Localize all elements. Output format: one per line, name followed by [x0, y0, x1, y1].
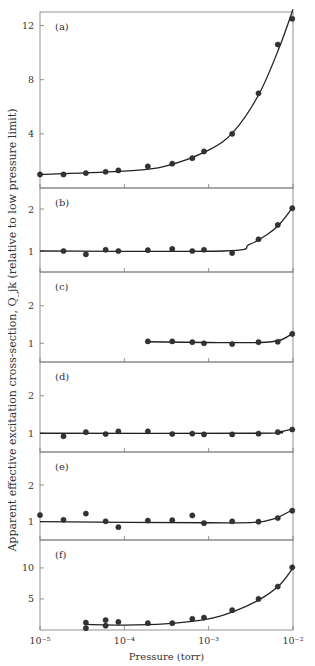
data-point: [290, 427, 295, 432]
data-point: [61, 434, 66, 439]
panel-label: (a): [55, 21, 69, 32]
data-point: [290, 16, 295, 21]
y-tick-label: 1: [28, 428, 34, 439]
data-point: [170, 161, 175, 166]
y-tick-label: 10: [22, 562, 34, 573]
data-point: [190, 616, 195, 621]
data-point: [116, 429, 121, 434]
data-point: [61, 172, 66, 177]
data-point: [116, 525, 121, 530]
panel-label: (d): [55, 371, 69, 382]
data-point: [190, 431, 195, 436]
data-point: [256, 519, 261, 524]
data-point: [230, 432, 235, 437]
data-point: [83, 626, 88, 631]
data-point: [201, 341, 206, 346]
fit-curve: [40, 9, 293, 174]
panel-frame: [40, 272, 293, 362]
data-point: [145, 164, 150, 169]
data-point: [103, 431, 108, 436]
x-axis-label: Pressure (torr): [129, 651, 205, 662]
data-point: [145, 339, 150, 344]
panel-frame: [40, 540, 293, 630]
fit-curve: [40, 429, 293, 434]
panel-label: (e): [55, 461, 69, 472]
data-point: [37, 512, 42, 517]
y-tick-label: 12: [22, 20, 34, 31]
data-point: [275, 430, 280, 435]
fit-curve: [40, 510, 293, 523]
fit-curve: [40, 207, 293, 252]
data-point: [275, 222, 280, 227]
data-point: [230, 131, 235, 136]
panel-label: (c): [55, 281, 69, 292]
y-tick-label: 4: [28, 128, 34, 139]
data-point: [116, 168, 121, 173]
data-point: [256, 340, 261, 345]
data-point: [190, 248, 195, 253]
data-point: [190, 340, 195, 345]
y-tick-label: 8: [28, 74, 34, 85]
x-tick-label: 10⁻⁴: [114, 635, 135, 646]
panel-label: (b): [55, 197, 69, 208]
data-point: [170, 339, 175, 344]
data-point: [170, 518, 175, 523]
data-point: [145, 248, 150, 253]
data-point: [290, 331, 295, 336]
figure: (a)4812(b)12(c)12(d)12(e)12(f)51010⁻⁵10⁻…: [0, 0, 315, 666]
data-point: [116, 619, 121, 624]
data-point: [145, 518, 150, 523]
data-point: [256, 237, 261, 242]
y-tick-label: 2: [28, 390, 34, 401]
data-point: [230, 519, 235, 524]
data-point: [201, 521, 206, 526]
data-point: [170, 431, 175, 436]
data-point: [170, 246, 175, 251]
data-point: [145, 429, 150, 434]
data-point: [256, 431, 261, 436]
data-point: [61, 517, 66, 522]
data-point: [230, 608, 235, 613]
data-point: [37, 172, 42, 177]
y-tick-label: 1: [28, 338, 34, 349]
data-point: [201, 247, 206, 252]
y-tick-label: 1: [28, 246, 34, 257]
x-tick-label: 10⁻²: [283, 635, 304, 646]
data-point: [275, 584, 280, 589]
panel-frame: [40, 188, 293, 272]
data-point: [230, 341, 235, 346]
data-point: [290, 565, 295, 570]
panel-label: (f): [55, 549, 67, 560]
data-point: [290, 206, 295, 211]
data-point: [61, 248, 66, 253]
data-point: [256, 596, 261, 601]
data-point: [230, 251, 235, 256]
data-point: [103, 247, 108, 252]
data-point: [275, 42, 280, 47]
data-point: [190, 156, 195, 161]
data-point: [83, 430, 88, 435]
y-axis-label: Apparent effective excitation cross-sect…: [6, 200, 18, 460]
panel-frame: [40, 452, 293, 540]
data-point: [83, 252, 88, 257]
data-point: [190, 513, 195, 518]
x-tick-label: 10⁻⁵: [30, 635, 51, 646]
data-point: [103, 623, 108, 628]
data-point: [145, 621, 150, 626]
data-point: [275, 339, 280, 344]
data-point: [201, 149, 206, 154]
y-tick-label: 2: [28, 480, 34, 491]
data-point: [201, 615, 206, 620]
data-point: [290, 508, 295, 513]
data-point: [256, 91, 261, 96]
data-point: [103, 617, 108, 622]
data-point: [103, 169, 108, 174]
data-point: [103, 519, 108, 524]
fit-curve: [86, 568, 293, 625]
data-point: [83, 511, 88, 516]
y-tick-label: 2: [28, 300, 34, 311]
data-point: [83, 171, 88, 176]
y-tick-label: 1: [28, 516, 34, 527]
data-point: [83, 620, 88, 625]
data-point: [275, 515, 280, 520]
